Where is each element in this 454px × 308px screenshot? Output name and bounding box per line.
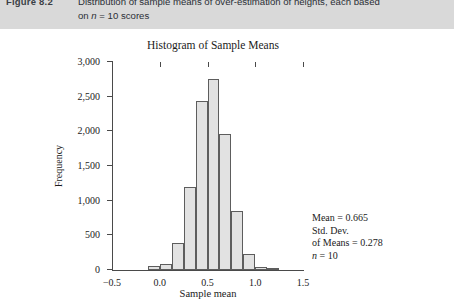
y-axis-tick-label: 3,000 (78, 56, 101, 67)
histogram-bar (172, 243, 184, 270)
y-axis-tick-label: 1,500 (78, 160, 101, 171)
caption-line-2-prefix: on (78, 10, 91, 21)
annotation-n-value: = 10 (317, 250, 338, 261)
x-axis-tick-label: 0.5 (201, 277, 214, 288)
caption-line-2-suffix: = 10 scores (97, 10, 150, 21)
annotation-std-label: Std. Dev. (312, 225, 383, 238)
histogram-plot-area: 05001,0001,5002,0002,5003,000−0.50.00.51… (112, 62, 303, 270)
figure-caption-text: Distribution of sample means of over-est… (78, 0, 450, 22)
x-axis-tick (160, 62, 161, 67)
histogram-bar (243, 254, 255, 270)
x-axis-tick-label: 1.5 (297, 277, 310, 288)
x-axis-tick (303, 62, 304, 67)
histogram-bar (148, 266, 160, 270)
figure-caption-band: Figure 8.2 Distribution of sample means … (0, 0, 454, 29)
histogram-bar (219, 134, 231, 270)
figure-number-label: Figure 8.2 (6, 0, 53, 7)
histogram-bar (160, 264, 172, 270)
histogram-bar (196, 101, 208, 270)
x-axis-tick (112, 62, 113, 67)
x-axis-tick-label: 0.0 (154, 277, 167, 288)
histogram-bar (208, 79, 220, 270)
x-axis-line (112, 270, 304, 271)
y-axis-tick: 1,500 (107, 165, 112, 166)
y-axis-tick-label: 0 (95, 264, 100, 275)
y-axis-tick: 500 (107, 234, 112, 235)
figure-area: Histogram of Sample Means 05001,0001,500… (0, 29, 454, 308)
x-axis-tick (208, 62, 209, 67)
annotation-std-value: of Means = 0.278 (312, 237, 383, 250)
annotation-sample-size: n = 10 (312, 250, 383, 263)
y-axis-tick-label: 2,500 (78, 90, 101, 101)
x-axis-label: Sample mean (180, 288, 237, 299)
x-axis-tick (255, 62, 256, 67)
histogram-bar (267, 268, 279, 270)
y-axis-tick: 2,500 (107, 96, 112, 97)
histogram-bar (231, 211, 243, 270)
caption-line-1: Distribution of sample means of over-est… (78, 0, 380, 7)
y-axis-label: Frequency (53, 145, 64, 187)
chart-title: Histogram of Sample Means (147, 39, 279, 51)
x-axis-tick-label: 1.0 (249, 277, 262, 288)
statistics-annotation: Mean = 0.665 Std. Dev. of Means = 0.278 … (312, 212, 383, 262)
y-axis-tick: 0 (107, 269, 112, 270)
y-axis-tick: 2,000 (107, 130, 112, 131)
histogram-bar (255, 267, 267, 270)
y-axis-tick: 1,000 (107, 200, 112, 201)
y-axis-tick-label: 2,000 (78, 125, 101, 136)
x-axis-tick-label: −0.5 (103, 277, 121, 288)
y-axis-tick-label: 500 (85, 229, 100, 240)
annotation-mean: Mean = 0.665 (312, 212, 383, 225)
histogram-bar (184, 187, 196, 270)
y-axis-tick-label: 1,000 (78, 194, 101, 205)
